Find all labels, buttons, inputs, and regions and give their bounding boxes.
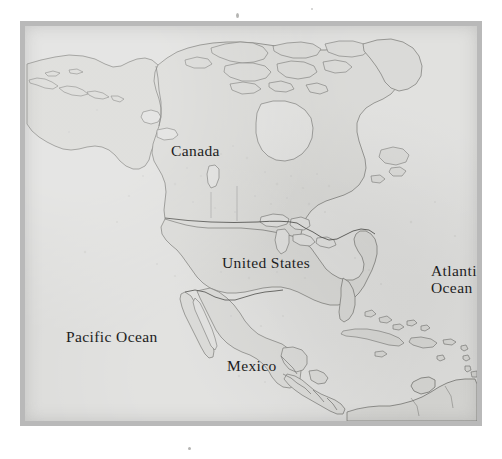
map-label-pacific-ocean: Pacific Ocean <box>66 328 158 345</box>
scan-speck-right <box>311 8 313 10</box>
scan-speck-top <box>236 13 239 18</box>
map-label-atlantic-ocean-line2: Ocean <box>431 279 477 296</box>
map-figure: .land { fill:#d4d4d1; stroke:#6e6e6b; st… <box>0 0 502 459</box>
scan-speck-bottom <box>188 447 191 450</box>
map-label-mexico: Mexico <box>227 357 277 374</box>
map-label-canada: Canada <box>171 142 220 159</box>
region-caribbean <box>341 310 471 372</box>
map-label-atlantic-ocean-line1: Atlantic <box>431 262 477 279</box>
region-central-america <box>284 370 345 414</box>
map-label-atlantic-ocean: Atlantic Ocean <box>431 262 477 297</box>
map-border-frame: .land { fill:#d4d4d1; stroke:#6e6e6b; st… <box>20 21 482 426</box>
map-label-united-states: United States <box>222 254 310 271</box>
region-south-america <box>347 371 477 421</box>
map-plate: .land { fill:#d4d4d1; stroke:#6e6e6b; st… <box>25 26 477 421</box>
